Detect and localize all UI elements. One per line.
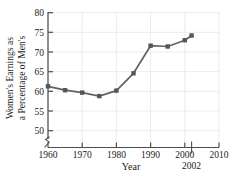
x-axis-ticks <box>48 143 219 148</box>
y-tick-label: 80 <box>35 8 45 18</box>
data-point-1985 <box>131 71 135 75</box>
y-tick-label: 75 <box>35 28 45 38</box>
chart-svg: 50 55 60 65 70 75 80 1960 1970 1980 1990 <box>0 0 236 182</box>
x-tick-label: 1980 <box>107 150 126 160</box>
y-tick-label: 70 <box>35 48 45 58</box>
y-axis-title-line2: a Percentage of Men's <box>16 35 27 120</box>
y-tick-label: 60 <box>35 87 45 97</box>
data-point-2000 <box>183 38 187 42</box>
data-point-1965 <box>63 88 67 92</box>
y-axis-title-line1: Women's Earnings as <box>4 37 15 119</box>
x-axis-callout-2002: 2002 <box>182 161 201 171</box>
plot-background <box>48 12 219 143</box>
data-point-1995 <box>166 44 170 48</box>
y-tick-label: 55 <box>35 107 45 117</box>
x-tick-label: 1970 <box>73 150 92 160</box>
data-point-1960 <box>46 84 50 88</box>
x-axis-tick-labels: 1960 1970 1980 1990 2000 2010 <box>39 150 229 160</box>
chart-figure: 50 55 60 65 70 75 80 1960 1970 1980 1990 <box>0 0 236 182</box>
data-point-2002 <box>189 33 193 37</box>
data-point-1980 <box>114 88 118 92</box>
data-point-1970 <box>80 90 84 94</box>
y-tick-label: 50 <box>35 126 45 136</box>
data-point-1975 <box>97 94 101 98</box>
x-tick-label: 1960 <box>39 150 58 160</box>
data-point-1990 <box>148 44 152 48</box>
x-axis-title: Year <box>122 161 141 172</box>
x-tick-label: 2010 <box>210 150 229 160</box>
y-tick-label: 65 <box>35 67 45 77</box>
y-axis-tick-labels: 50 55 60 65 70 75 80 <box>35 8 45 136</box>
x-tick-label: 1990 <box>141 150 160 160</box>
